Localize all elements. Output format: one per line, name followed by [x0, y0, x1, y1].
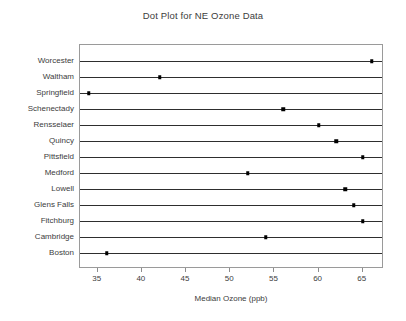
dot-plot-chart: Dot Plot for NE Ozone Data WorcesterWalt…	[0, 0, 406, 321]
category-tick-label: Springfield	[5, 88, 79, 97]
data-point	[370, 59, 374, 63]
category-tick-label: Lowell	[5, 184, 79, 193]
category-tick-label: Schenectady	[5, 104, 79, 113]
chart-title: Dot Plot for NE Ozone Data	[0, 10, 406, 21]
data-point	[317, 123, 321, 127]
data-point	[343, 187, 347, 191]
x-tick-label: 40	[136, 274, 145, 283]
category-tick-label: Glens Falls	[5, 200, 79, 209]
reference-line	[80, 125, 382, 126]
x-tick-mark	[141, 268, 142, 272]
data-point	[335, 139, 339, 143]
data-point	[352, 203, 356, 207]
x-tick-label: 65	[357, 274, 366, 283]
data-point	[105, 251, 109, 255]
x-tick-label: 60	[313, 274, 322, 283]
data-point	[87, 91, 91, 95]
category-tick-label: Medford	[5, 168, 79, 177]
reference-line	[80, 253, 382, 254]
category-axis: WorcesterWalthamSpringfieldSchenectadyRe…	[0, 44, 79, 268]
reference-line	[80, 237, 382, 238]
category-tick-label: Fitchburg	[5, 216, 79, 225]
reference-line	[80, 221, 382, 222]
data-point	[246, 171, 250, 175]
x-tick-label: 50	[225, 274, 234, 283]
x-tick-mark	[273, 268, 274, 272]
reference-line	[80, 157, 382, 158]
x-tick-mark	[318, 268, 319, 272]
x-axis-title: Median Ozone (ppb)	[79, 294, 383, 303]
reference-line	[80, 189, 382, 190]
plot-area	[79, 44, 383, 268]
reference-line	[80, 205, 382, 206]
reference-line	[80, 77, 382, 78]
x-tick-label: 35	[92, 274, 101, 283]
reference-line	[80, 93, 382, 94]
category-tick-label: Boston	[5, 248, 79, 257]
reference-line	[80, 173, 382, 174]
data-point	[361, 219, 365, 223]
data-point	[361, 155, 365, 159]
category-tick-label: Rensselaer	[5, 120, 79, 129]
x-tick-mark	[362, 268, 363, 272]
x-tick-label: 45	[181, 274, 190, 283]
data-point	[282, 107, 286, 111]
x-tick-mark	[229, 268, 230, 272]
x-tick-label: 55	[269, 274, 278, 283]
data-point	[158, 75, 162, 79]
reference-line	[80, 61, 382, 62]
x-tick-mark	[185, 268, 186, 272]
data-point	[264, 235, 268, 239]
category-tick-label: Quincy	[5, 136, 79, 145]
category-tick-label: Pittsfield	[5, 152, 79, 161]
category-tick-label: Waltham	[5, 72, 79, 81]
category-tick-label: Cambridge	[5, 232, 79, 241]
reference-line	[80, 109, 382, 110]
x-tick-mark	[97, 268, 98, 272]
category-tick-label: Worcester	[5, 56, 79, 65]
